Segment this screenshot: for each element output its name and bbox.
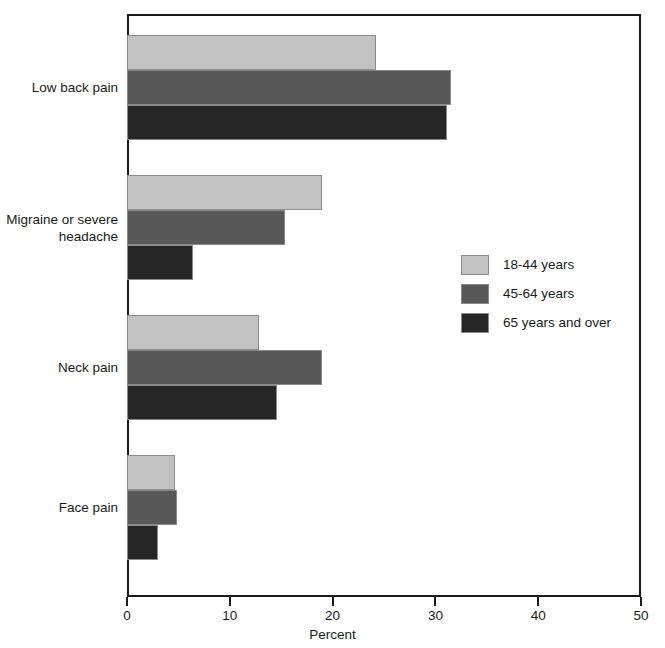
- x-tick-label: 0: [97, 608, 157, 623]
- bar: [127, 490, 177, 525]
- legend-swatch-icon: [461, 255, 489, 275]
- legend-label: 45-64 years: [503, 286, 574, 301]
- legend-item: 18-44 years: [461, 250, 611, 279]
- bar-chart: Low back painMigraine or severe headache…: [0, 0, 665, 648]
- bar: [127, 350, 322, 385]
- bar: [127, 210, 285, 245]
- bar: [127, 245, 193, 280]
- category-label: Face pain: [0, 499, 118, 516]
- x-tick-mark: [434, 597, 436, 606]
- bar: [127, 525, 158, 560]
- bar: [127, 70, 451, 105]
- bar-group: [127, 455, 641, 560]
- x-tick-mark: [332, 597, 334, 606]
- x-tick-mark: [537, 597, 539, 606]
- x-tick-label: 50: [611, 608, 665, 623]
- bar-group: [127, 35, 641, 140]
- x-tick-label: 10: [200, 608, 260, 623]
- x-axis-title: Percent: [0, 627, 665, 642]
- x-tick-mark: [126, 597, 128, 606]
- category-label: Neck pain: [0, 359, 118, 376]
- legend-item: 65 years and over: [461, 308, 611, 337]
- bar: [127, 315, 259, 350]
- legend-item: 45-64 years: [461, 279, 611, 308]
- x-tick-label: 40: [508, 608, 568, 623]
- legend-label: 65 years and over: [503, 315, 611, 330]
- legend-swatch-icon: [461, 313, 489, 333]
- x-tick-label: 20: [303, 608, 363, 623]
- legend: 18-44 years45-64 years65 years and over: [461, 250, 611, 337]
- category-label: Migraine or severe headache: [0, 211, 118, 245]
- category-label: Low back pain: [0, 79, 118, 96]
- legend-swatch-icon: [461, 284, 489, 304]
- bar: [127, 175, 322, 210]
- x-tick-label: 30: [405, 608, 465, 623]
- x-tick-mark: [229, 597, 231, 606]
- bar: [127, 455, 175, 490]
- legend-label: 18-44 years: [503, 257, 574, 272]
- bar: [127, 35, 376, 70]
- bar: [127, 385, 277, 420]
- x-tick-mark: [640, 597, 642, 606]
- bar: [127, 105, 447, 140]
